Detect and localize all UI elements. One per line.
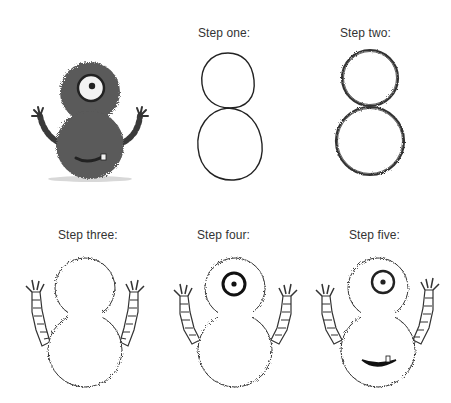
- step-two-label: Step two:: [340, 26, 391, 40]
- arm-right: [120, 280, 144, 346]
- step-two-drawing: [330, 46, 410, 186]
- step-one-label: Step one:: [198, 26, 250, 40]
- arm-left: [26, 280, 50, 346]
- step-one-drawing: [190, 48, 270, 188]
- finished-monster-image: [20, 50, 160, 190]
- striped-arm-left: [40, 116, 58, 142]
- step-five-label: Step five:: [349, 228, 400, 242]
- step-five-drawing: [312, 250, 447, 395]
- step-three-drawing: [20, 250, 150, 395]
- step-three-label: Step three:: [58, 228, 118, 242]
- step-four-drawing: [168, 250, 303, 395]
- step-four-label: Step four:: [197, 228, 250, 242]
